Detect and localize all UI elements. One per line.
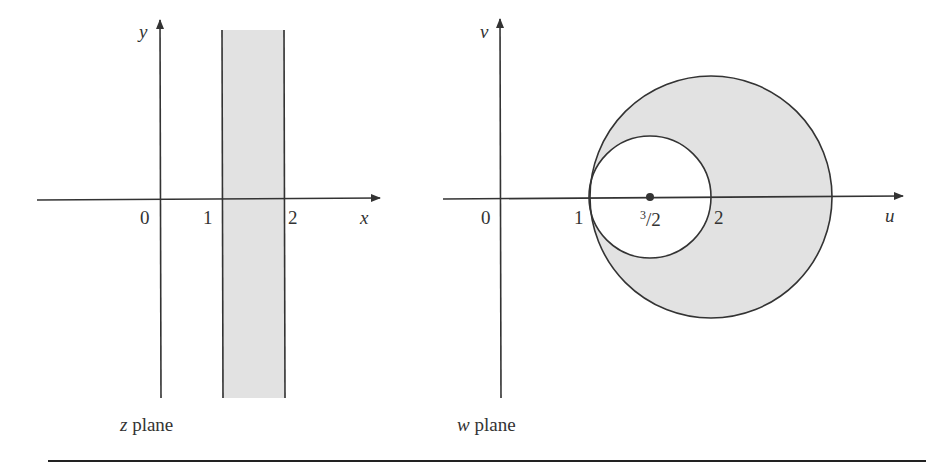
- v-axis-label: v: [480, 21, 489, 42]
- tick-0: 0: [140, 207, 150, 228]
- u-axis-label: u: [885, 205, 895, 226]
- tick-2: 2: [714, 207, 724, 228]
- x-axis-label: x: [359, 207, 369, 228]
- y-axis: [160, 20, 161, 398]
- center-label: 3/2: [640, 208, 661, 230]
- tick-0: 0: [481, 207, 491, 228]
- v-axis: [500, 19, 501, 398]
- conformal-map-figure: y x 0 1 2 z plane v u 0 1 2 3/2 w plane: [0, 0, 926, 463]
- w-plane-panel: v u 0 1 2 3/2 w plane: [443, 19, 903, 435]
- w-plane-caption: w plane: [457, 414, 516, 435]
- tick-2: 2: [288, 207, 298, 228]
- y-axis-label: y: [137, 21, 148, 42]
- tick-1: 1: [203, 207, 213, 228]
- center-point: [646, 193, 654, 201]
- x-axis: [37, 198, 380, 200]
- u-axis: [443, 196, 903, 199]
- strip-left-boundary: [222, 30, 223, 398]
- z-plane-caption: z plane: [119, 414, 173, 435]
- shaded-strip: [222, 30, 285, 398]
- tick-1: 1: [574, 207, 584, 228]
- strip-right-boundary: [284, 30, 285, 398]
- z-plane-panel: y x 0 1 2 z plane: [37, 20, 380, 435]
